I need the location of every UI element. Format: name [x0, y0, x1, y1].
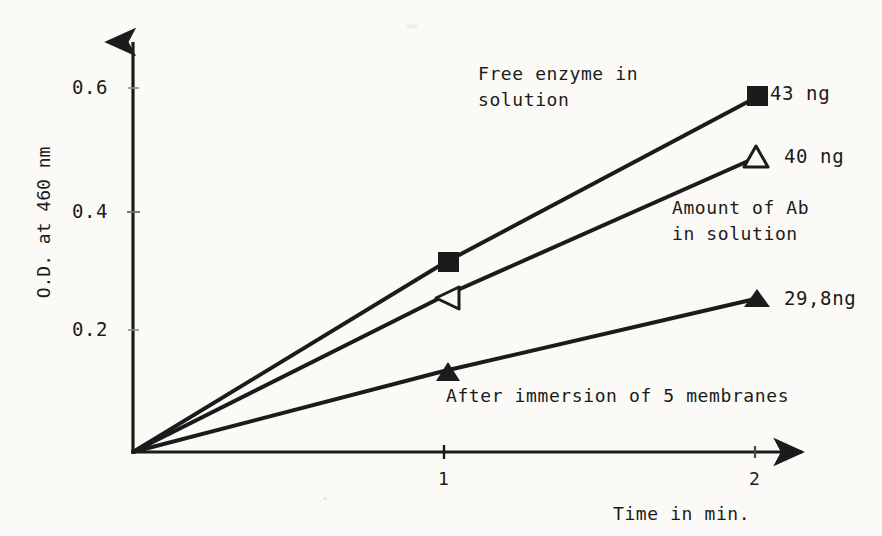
y-tick-label-0.6: 0.6	[72, 76, 108, 98]
y-tick-label-0.2: 0.2	[72, 318, 108, 340]
annotation-free-enzyme-line1: Free enzyme in	[478, 62, 638, 86]
chart-figure: O.D. at 460 nm 0.6 0.4 0.2 1 2 Time in m…	[0, 0, 882, 536]
plot-canvas	[0, 0, 882, 536]
y-axis-title-container: O.D. at 460 nm	[33, 108, 54, 338]
annotation-after-immersion: After immersion of 5 membranes	[446, 384, 789, 408]
y-tick-label-0.4: 0.4	[72, 200, 108, 222]
y-axis-title: O.D. at 460 nm	[33, 147, 54, 299]
marker-open-triangle	[436, 287, 459, 309]
annotation-amount-ab-line1: Amount of Ab	[672, 196, 809, 220]
marker-filled-square	[438, 252, 459, 272]
x-tick-label-1: 1	[438, 468, 449, 489]
point-label-43ng: 43 ng	[770, 82, 830, 104]
point-label-298ng: 29,8ng	[784, 287, 856, 309]
annotation-free-enzyme-line2: solution	[478, 88, 570, 112]
annotation-amount-ab-line2: in solution	[672, 222, 798, 246]
point-label-40ng: 40 ng	[784, 145, 844, 167]
x-axis-title: Time in min.	[613, 503, 750, 524]
marker-filled-square	[747, 86, 768, 106]
marker-filled-triangle	[744, 289, 770, 307]
marker-open-triangle	[744, 146, 768, 167]
x-tick-label-2: 2	[749, 468, 760, 489]
